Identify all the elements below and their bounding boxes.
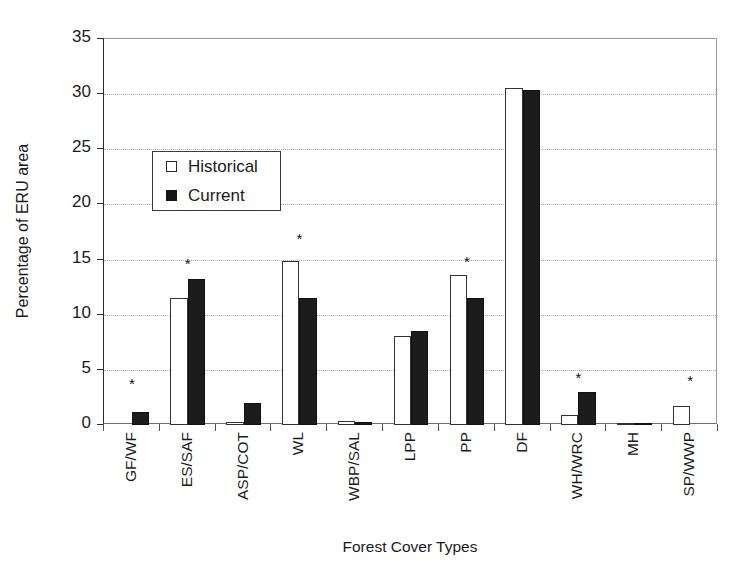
x-tick-label: WH/WRC (568, 432, 586, 499)
x-axis-title: Forest Cover Types (103, 538, 717, 556)
legend-item-historical: Historical (153, 152, 280, 181)
bar-current (355, 422, 372, 425)
y-tick-mark (97, 148, 104, 149)
y-tick-label: 15 (45, 248, 91, 268)
x-tick-label: ASP/COT (234, 432, 252, 500)
significance-asterisk: * (181, 256, 195, 271)
y-tick-mark (97, 93, 104, 94)
x-tick-label: PP (457, 432, 475, 453)
bar-current (132, 412, 149, 425)
legend-item-label: Historical (188, 157, 258, 177)
bar-current (634, 423, 651, 425)
x-tick-label: LPP (401, 432, 419, 461)
bar-current (244, 403, 261, 425)
legend-item-current: Current (153, 181, 280, 210)
bar-current (411, 331, 428, 425)
x-tick-mark (103, 424, 104, 431)
y-tick-mark (97, 369, 104, 370)
bar-historical (505, 88, 522, 425)
bar-historical (450, 275, 467, 425)
y-tick-label: 25 (45, 137, 91, 157)
x-tick-mark (159, 424, 160, 431)
gridline (104, 260, 716, 261)
y-tick-label: 20 (45, 192, 91, 212)
chart-legend: Historical Current (152, 151, 281, 211)
bar-current (523, 90, 540, 425)
y-axis-title-text: Percentage of ERU area (14, 144, 32, 318)
y-tick-mark (97, 38, 104, 39)
x-tick-label: GF/WF (122, 432, 140, 482)
x-tick-mark (326, 424, 327, 431)
bar-historical (282, 261, 299, 425)
x-tick-mark (661, 424, 662, 431)
bar-chart-figure: Percentage of ERU area ****** 0510152025… (0, 0, 752, 581)
significance-asterisk: * (460, 254, 474, 269)
y-tick-mark (97, 314, 104, 315)
bar-current (188, 279, 205, 425)
bar-current (467, 298, 484, 425)
y-tick-label: 10 (45, 303, 91, 323)
bar-historical (561, 415, 578, 425)
x-tick-mark (215, 424, 216, 431)
y-tick-label: 30 (45, 82, 91, 102)
x-tick-mark (382, 424, 383, 431)
bar-current (578, 392, 595, 425)
y-tick-mark (97, 259, 104, 260)
x-tick-label: WBP/SAL (345, 432, 363, 501)
y-tick-label: 35 (45, 27, 91, 47)
x-tick-mark (494, 424, 495, 431)
x-tick-mark (717, 424, 718, 431)
legend-item-label: Current (188, 186, 245, 206)
x-tick-label: ES/SAF (178, 432, 196, 487)
bar-historical (226, 422, 243, 425)
filled-square-swatch-icon (166, 190, 177, 201)
bar-historical (170, 298, 187, 425)
y-tick-label: 5 (45, 358, 91, 378)
significance-asterisk: * (683, 373, 697, 388)
x-tick-label: WL (289, 432, 307, 455)
open-square-swatch-icon (166, 161, 177, 172)
x-tick-label: DF (513, 432, 531, 453)
x-tick-mark (438, 424, 439, 431)
bar-historical (617, 423, 634, 425)
plot-area: ****** (103, 38, 717, 424)
bar-historical (394, 336, 411, 425)
gridline (104, 94, 716, 95)
significance-asterisk: * (292, 231, 306, 246)
bar-historical (673, 406, 690, 425)
bar-current (299, 298, 316, 425)
significance-asterisk: * (125, 376, 139, 391)
x-tick-mark (270, 424, 271, 431)
x-tick-label: MH (624, 432, 642, 456)
x-tick-label: SP/WWP (680, 432, 698, 497)
x-tick-mark (550, 424, 551, 431)
bar-historical (338, 421, 355, 425)
x-tick-mark (605, 424, 606, 431)
y-tick-mark (97, 203, 104, 204)
y-tick-label: 0 (45, 413, 91, 433)
significance-asterisk: * (571, 370, 585, 385)
